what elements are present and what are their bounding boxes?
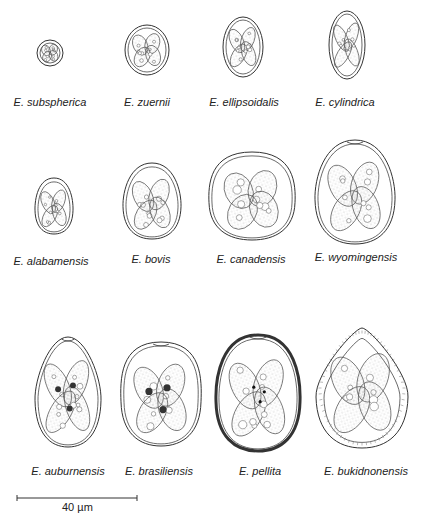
label-e-pellita: E. pellita <box>239 465 281 477</box>
oocyst-bovis <box>123 163 181 239</box>
label-e-zuernii: E. zuernii <box>124 96 170 108</box>
scale-bar-label: 40 µm <box>62 501 93 513</box>
label-e-ellipsoidalis: E. ellipsoidalis <box>209 96 279 108</box>
label-e-canadensis: E. canadensis <box>216 253 285 265</box>
label-e-bovis: E. bovis <box>131 253 170 265</box>
oocyst-cylindrica <box>329 11 365 79</box>
label-e-subspherica: E. subspherica <box>14 96 87 108</box>
oocyst-alabamensis <box>35 178 73 234</box>
label-e-wyomingensis: E. wyomingensis <box>315 251 398 263</box>
oocyst-bukidnonensis <box>316 328 408 448</box>
oocyst-pellita <box>216 335 300 451</box>
oocyst-figure: E. subspherica E. zuernii E. ellipsoidal… <box>0 0 425 516</box>
oocyst-wyomingensis <box>315 140 395 244</box>
oocyst-brasiliensis <box>121 342 201 446</box>
label-e-alabamensis: E. alabamensis <box>13 255 88 267</box>
label-e-brasiliensis: E. brasiliensis <box>125 465 193 477</box>
label-e-cylindrica: E. cylindrica <box>315 96 374 108</box>
oocyst-canadensis <box>209 152 295 240</box>
label-e-bukidnonensis: E. bukidnonensis <box>324 465 408 477</box>
oocyst-auburnensis <box>35 337 101 447</box>
label-e-auburnensis: E. auburnensis <box>31 465 104 477</box>
oocyst-ellipsoidalis <box>223 17 263 77</box>
oocyst-subspherica <box>37 40 63 66</box>
oocyst-zuernii <box>125 25 169 75</box>
